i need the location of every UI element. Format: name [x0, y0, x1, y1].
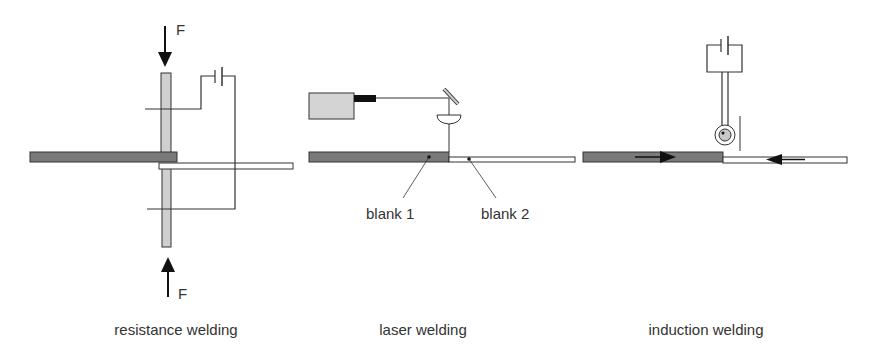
laser-nozzle — [354, 95, 376, 102]
caption-resistance-welding: resistance welding — [114, 321, 237, 338]
induction-circuit — [707, 36, 742, 131]
laser-source — [309, 93, 354, 119]
induction-welding-panel: induction welding — [583, 36, 847, 338]
blank-2-leader — [469, 159, 496, 198]
blank-1-dark — [30, 152, 177, 162]
caption-laser-welding: laser welding — [379, 321, 467, 338]
induction-coil-core — [719, 129, 731, 141]
blank-2-light — [159, 163, 293, 169]
blank-1-leader — [403, 157, 429, 198]
lower-electrode — [162, 166, 171, 247]
resistance-welding-panel: F F resistance welding — [30, 21, 293, 338]
focusing-lens — [437, 115, 461, 124]
laser-welding-panel: blank 1 blank 2 laser welding — [309, 89, 575, 338]
blank-2-label: blank 2 — [481, 205, 529, 222]
force-label-bottom: F — [178, 285, 187, 302]
upper-electrode — [161, 73, 171, 153]
welding-methods-diagram: F F resistance welding — [0, 0, 879, 360]
force-arrow-bottom — [161, 257, 175, 297]
blank-1-label: blank 1 — [366, 205, 414, 222]
force-arrow-top — [158, 26, 172, 67]
caption-induction-welding: induction welding — [648, 321, 763, 338]
resistance-circuit — [145, 67, 235, 209]
force-label-top: F — [176, 21, 185, 38]
